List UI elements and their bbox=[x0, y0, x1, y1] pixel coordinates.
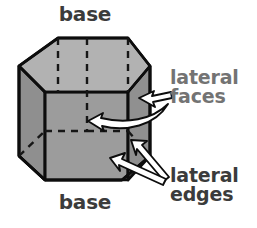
label-lateral-edges-line2: edges bbox=[170, 185, 239, 204]
label-base-top: base bbox=[0, 4, 170, 24]
prism-body bbox=[19, 38, 150, 180]
label-lateral-faces-line2: faces bbox=[170, 87, 239, 106]
label-base-bottom: base bbox=[0, 192, 170, 212]
label-lateral-edges: lateral edges bbox=[170, 166, 239, 205]
label-lateral-faces: lateral faces bbox=[170, 68, 239, 107]
diagram-canvas: base base lateral faces lateral edges bbox=[0, 0, 257, 228]
